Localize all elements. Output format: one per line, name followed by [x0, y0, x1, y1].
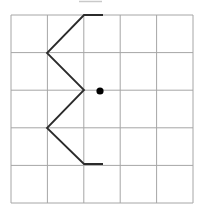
figure-canvas	[0, 0, 205, 213]
figure	[0, 0, 205, 213]
grid	[11, 15, 193, 203]
point-marker	[96, 87, 103, 94]
zigzag-polyline	[47, 15, 103, 164]
